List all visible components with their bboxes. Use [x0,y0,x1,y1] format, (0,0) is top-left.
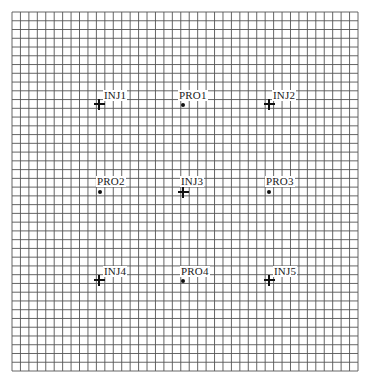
injector-cross-icon [264,275,275,286]
well-label: INJ3 [180,176,204,187]
well-label: PRO3 [265,176,295,187]
well-label: INJ5 [273,266,297,277]
producer-dot-icon [181,279,185,283]
producer-dot-icon [181,103,185,107]
producer-dot-icon [98,190,102,194]
producer-dot-icon [267,190,271,194]
injector-cross-icon [264,99,275,110]
well-label: INJ1 [103,90,127,101]
well-label: PRO2 [96,176,126,187]
injector-cross-icon [94,99,105,110]
well-label: PRO1 [178,90,208,101]
injector-cross-icon [178,187,189,198]
well-label: PRO4 [180,266,210,277]
well-label: INJ2 [272,90,296,101]
injector-cross-icon [94,275,105,286]
well-label: INJ4 [103,266,127,277]
